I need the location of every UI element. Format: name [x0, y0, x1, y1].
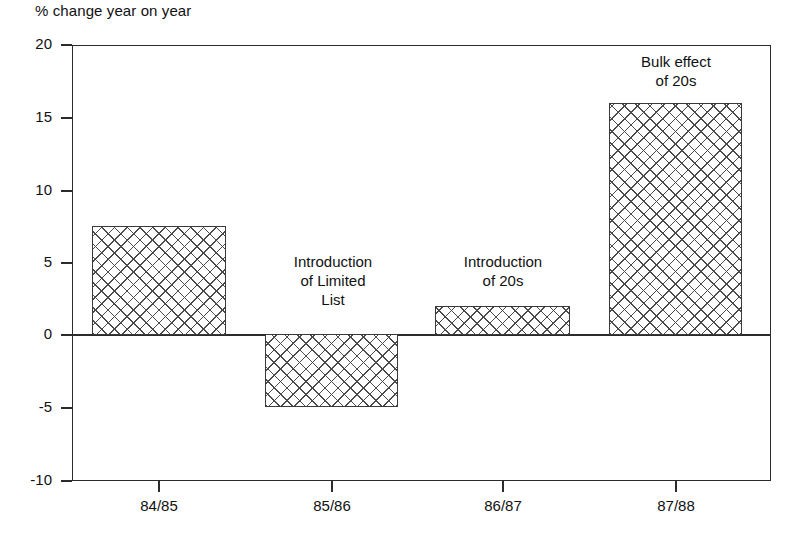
bar-84-85[interactable]: [92, 226, 226, 335]
y-tick-10: [61, 190, 72, 192]
x-axis-label-84-85: 84/85: [89, 497, 229, 514]
y-tick-0: [61, 334, 72, 336]
y-axis-label-neg10: -10: [0, 471, 52, 488]
annotation-limited-list: Introduction of Limited List: [258, 252, 408, 309]
clipped-caption-artifact: [6, 529, 306, 539]
chart-canvas: % change year on year 20 15 10 5 0 -5 -1…: [0, 0, 787, 539]
annotation-bulk-effect: Bulk effect of 20s: [603, 52, 749, 90]
bar-85-86[interactable]: [265, 334, 398, 407]
x-axis-label-85-86: 85/86: [262, 497, 402, 514]
y-axis-label-5: 5: [0, 253, 52, 270]
y-tick-5: [61, 262, 72, 264]
y-axis-label-15: 15: [0, 108, 52, 125]
y-tick-20: [61, 44, 72, 46]
bar-86-87[interactable]: [435, 306, 570, 335]
y-tick-15: [61, 117, 72, 119]
x-tick-87-88: [675, 481, 677, 492]
x-tick-85-86: [331, 481, 333, 492]
y-tick-neg5: [61, 407, 72, 409]
x-tick-86-87: [502, 481, 504, 492]
x-axis-label-87-88: 87/88: [606, 497, 746, 514]
x-axis-label-86-87: 86/87: [433, 497, 573, 514]
y-axis-label-neg5: -5: [0, 398, 52, 415]
y-axis-label-20: 20: [0, 35, 52, 52]
y-axis-title: % change year on year: [35, 2, 191, 19]
y-axis-label-10: 10: [0, 181, 52, 198]
y-tick-neg10: [61, 480, 72, 482]
bar-87-88[interactable]: [609, 103, 742, 335]
x-tick-84-85: [158, 481, 160, 492]
annotation-intro-20s: Introduction of 20s: [430, 252, 576, 290]
y-axis-label-0: 0: [0, 325, 52, 342]
